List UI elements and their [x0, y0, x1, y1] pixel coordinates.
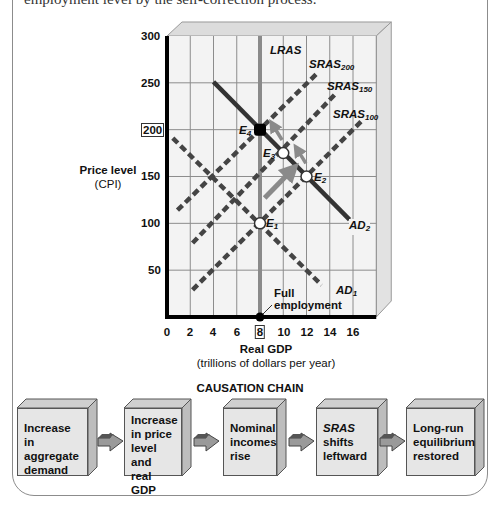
full-employment-label-line2: employment [274, 299, 342, 312]
full-employment-point [256, 313, 265, 322]
e2-label: E2 [314, 171, 326, 187]
e4-label: E4 [239, 124, 251, 140]
sras200-label: SRAS200 [309, 58, 354, 74]
x-tick-14: 14 [324, 326, 337, 339]
chain-step-2: Increasein pricelevel andreal GDP [124, 408, 182, 476]
box-side-face [376, 22, 391, 317]
e1-label: E1 [266, 217, 278, 233]
chain-arrow-3-icon [287, 430, 317, 454]
y-axis-title: Price level [80, 164, 137, 177]
equilibrium-e3 [278, 148, 289, 159]
y-tick-100: 100 [141, 217, 160, 230]
lras-label: LRAS [270, 44, 301, 57]
x-tick-10: 10 [278, 326, 291, 339]
y-tick-50: 50 [148, 264, 161, 277]
chain-step-1: Increase inaggregatedemand [17, 408, 88, 476]
y-tick-250: 250 [141, 77, 160, 90]
x-tick-12: 12 [301, 326, 314, 339]
box-top-face [167, 22, 391, 36]
chain-step-4: SRASshiftsleftward [316, 408, 378, 476]
ad2-label: AD2 [349, 219, 370, 235]
causation-chain-title: CAUSATION CHAIN [196, 382, 303, 394]
y-tick-200-highlighted: 200 [141, 123, 164, 137]
x-axis-title: Real GDP [240, 343, 292, 356]
equilibrium-e2 [301, 171, 312, 182]
chain-step-3: Nominalincomesrise [223, 408, 277, 476]
ad1-label: AD1 [336, 284, 357, 300]
x-tick-2: 2 [187, 326, 193, 339]
x-tick-16: 16 [347, 326, 360, 339]
y-axis-subtitle: (CPI) [95, 178, 122, 191]
equilibrium-e4 [254, 124, 266, 136]
sras100-label: SRAS100 [333, 108, 378, 124]
x-tick-0: 0 [164, 326, 170, 339]
x-axis-subtitle: (trillions of dollars per year) [197, 357, 336, 370]
equilibrium-e1 [255, 218, 266, 229]
x-tick-6: 6 [234, 326, 240, 339]
sras150-label: SRAS150 [327, 80, 372, 96]
chain-arrow-4-icon [378, 430, 408, 454]
y-tick-300: 300 [141, 30, 160, 43]
chain-step-5: Long-runequilibriumrestored [406, 408, 475, 476]
y-tick-150: 150 [141, 170, 160, 183]
as-ad-chart [0, 0, 501, 380]
chain-arrow-2-icon [192, 430, 222, 454]
x-tick-8-highlighted: 8 [255, 325, 265, 339]
chain-arrow-1-icon [96, 430, 126, 454]
x-tick-4: 4 [210, 326, 216, 339]
e3-label: E3 [263, 147, 275, 163]
